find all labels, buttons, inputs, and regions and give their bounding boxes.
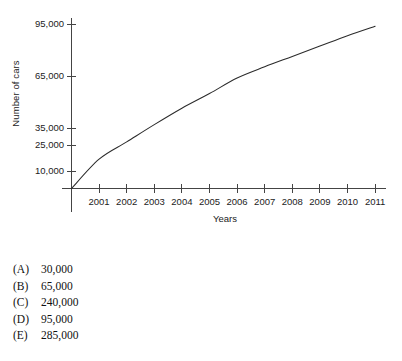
x-axis-tick-label: 2011 xyxy=(359,196,391,207)
data-series-line xyxy=(72,26,376,188)
y-axis-tick-label: 25,000 xyxy=(16,139,64,150)
answer-option[interactable]: (E)285,000 xyxy=(13,329,78,346)
answer-option-letter: (C) xyxy=(13,296,41,308)
answer-option[interactable]: (B)65,000 xyxy=(13,280,78,297)
answer-option-letter: (D) xyxy=(13,313,41,325)
answer-option-letter: (B) xyxy=(13,280,41,292)
y-axis-tick-label: 35,000 xyxy=(16,122,64,133)
axis-lines xyxy=(62,18,386,212)
answer-option-letter: (E) xyxy=(13,329,41,341)
answer-option-value: 285,000 xyxy=(41,329,78,341)
x-axis-title: Years xyxy=(150,213,300,224)
answer-option[interactable]: (A)30,000 xyxy=(13,263,78,280)
answer-option[interactable]: (D)95,000 xyxy=(13,313,78,330)
answer-option-value: 95,000 xyxy=(41,313,73,325)
answer-option-value: 65,000 xyxy=(41,280,73,292)
answer-option-value: 240,000 xyxy=(41,296,78,308)
answer-option[interactable]: (C)240,000 xyxy=(13,296,78,313)
y-axis-tick-label: 95,000 xyxy=(16,18,64,29)
chart-figure: 95,00065,00035,00025,00010,000 200120022… xyxy=(0,0,402,250)
answer-options-list: (A)30,000(B)65,000(C)240,000(D)95,000(E)… xyxy=(13,263,78,346)
answer-option-value: 30,000 xyxy=(41,263,73,275)
answer-option-letter: (A) xyxy=(13,263,41,275)
y-axis-title: Number of cars xyxy=(10,49,21,139)
y-axis-tick-label: 65,000 xyxy=(16,70,64,81)
y-axis-tick-label: 10,000 xyxy=(16,165,64,176)
